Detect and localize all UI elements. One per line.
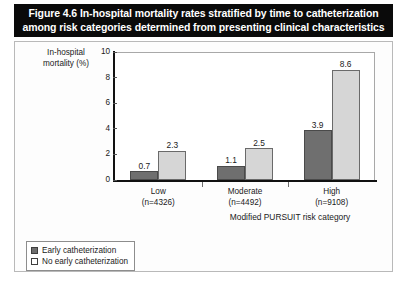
y-axis-tick-label: 8 [86, 73, 110, 83]
figure-title-line-1: Figure 4.6 In-hospital mortality rates s… [22, 7, 385, 21]
figure-title-bar: Figure 4.6 In-hospital mortality rates s… [14, 4, 393, 37]
x-axis-category-name: High [292, 187, 372, 198]
y-axis-tick-mark [113, 103, 117, 104]
bar-high-series-1: 3.9 [304, 130, 332, 180]
bar-low-series-1: 0.7 [130, 171, 158, 180]
figure-title-line-2: among risk categories determined from pr… [22, 21, 385, 35]
y-axis-tick-mark [113, 77, 117, 78]
y-axis-tick: 2 [86, 149, 110, 159]
bar-value-label: 0.7 [139, 161, 151, 171]
bar-value-label: 2.5 [253, 138, 265, 148]
chart-legend: Early catheterization No early catheteri… [26, 241, 135, 271]
y-axis-tick-label: 4 [86, 124, 110, 134]
y-axis-tick-mark [113, 180, 117, 181]
y-axis-tick-mark [113, 52, 117, 53]
x-axis-separator-tick [202, 182, 203, 187]
bar-low-series-2: 2.3 [158, 151, 186, 180]
bar-value-label: 8.6 [340, 59, 352, 69]
legend-label-no-early: No early catheterization [42, 257, 128, 267]
bar-moderate-series-2: 2.5 [245, 148, 273, 180]
x-axis-category-moderate: Moderate(n=4492) [205, 187, 285, 208]
y-axis-tick: 6 [86, 98, 110, 108]
y-axis-tick-label: 0 [86, 175, 110, 185]
bar-value-label: 2.3 [167, 140, 179, 150]
y-axis-tick: 4 [86, 124, 110, 134]
bar-high-series-2: 8.6 [332, 70, 360, 180]
x-axis-category-count: (n=4326) [118, 198, 198, 209]
legend-swatch-icon-early [31, 247, 38, 254]
y-axis-tick-label: 6 [86, 98, 110, 108]
x-axis-category-name: Low [118, 187, 198, 198]
y-axis-tick-label: 10 [86, 47, 110, 57]
bar-value-label: 1.1 [225, 155, 237, 165]
y-axis-tick: 8 [86, 73, 110, 83]
y-axis-tick-label: 2 [86, 149, 110, 159]
figure-container: Figure 4.6 In-hospital mortality rates s… [0, 0, 401, 294]
x-axis-category-high: High(n=9108) [292, 187, 372, 208]
y-axis-tick: 10 [86, 47, 110, 57]
y-axis-line [113, 51, 115, 181]
x-axis-title: Modified PURSUIT risk category [205, 212, 375, 222]
y-axis-tick-mark [113, 128, 117, 129]
x-axis-category-count: (n=4492) [205, 198, 285, 209]
bar-value-label: 3.9 [312, 120, 324, 130]
y-axis-tick-mark [113, 154, 117, 155]
x-axis-category-name: Moderate [205, 187, 285, 198]
x-axis-category-count: (n=9108) [292, 198, 372, 209]
x-axis-separator-tick [288, 182, 289, 187]
x-axis-category-low: Low(n=4326) [118, 187, 198, 208]
bar-moderate-series-1: 1.1 [217, 166, 245, 180]
legend-label-early: Early catheterization [42, 246, 116, 256]
legend-swatch-icon-no-early [31, 258, 38, 265]
legend-item-no-early: No early catheterization [31, 256, 128, 267]
legend-item-early: Early catheterization [31, 245, 128, 256]
y-axis-title-line-2: mortality (%) [22, 59, 110, 70]
y-axis-tick: 0 [86, 175, 110, 185]
